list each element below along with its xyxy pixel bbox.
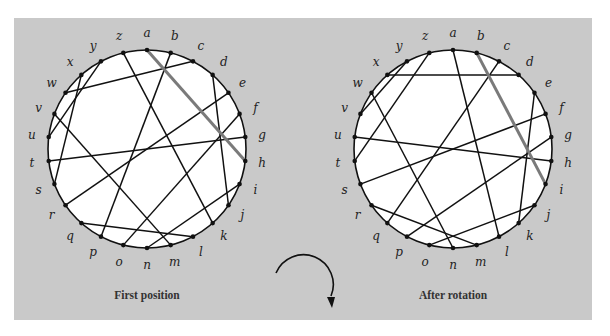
point-g (243, 135, 248, 140)
point-r (63, 203, 68, 208)
point-w (369, 90, 374, 95)
point-label-s: s (341, 183, 347, 197)
point-u (352, 135, 357, 140)
point-label-a: a (449, 26, 456, 40)
point-c (191, 59, 196, 64)
point-k (210, 221, 215, 226)
point-x (385, 73, 390, 78)
point-label-h: h (258, 156, 266, 170)
point-label-n: n (449, 258, 457, 272)
point-b (168, 51, 173, 56)
point-r (369, 203, 374, 208)
point-m (474, 243, 479, 248)
point-label-z: z (421, 29, 429, 43)
point-label-m: m (169, 255, 180, 269)
point-label-g: g (564, 128, 572, 142)
point-label-y: y (89, 39, 97, 53)
point-label-k: k (526, 229, 533, 243)
point-label-m: m (475, 255, 486, 269)
point-label-r: r (49, 208, 56, 222)
point-p (99, 234, 104, 239)
point-o (121, 243, 126, 248)
point-f (543, 112, 548, 117)
point-label-j: j (238, 208, 245, 222)
point-j (226, 203, 231, 208)
point-label-w: w (352, 76, 363, 90)
point-label-t: t (29, 156, 34, 170)
point-h (549, 159, 554, 164)
point-label-c: c (504, 39, 511, 53)
point-label-b: b (171, 29, 179, 43)
point-d (210, 73, 215, 78)
point-x (79, 73, 84, 78)
point-label-d: d (526, 55, 534, 69)
point-label-l: l (505, 245, 509, 259)
point-label-o: o (116, 255, 123, 269)
point-label-u: u (334, 128, 342, 142)
point-y (99, 59, 104, 64)
point-label-e: e (239, 76, 246, 90)
point-label-v: v (341, 101, 348, 115)
point-o (427, 243, 432, 248)
point-label-i: i (560, 183, 564, 197)
caption-after-rotation: After rotation (419, 289, 488, 301)
point-label-q: q (66, 229, 74, 243)
point-label-y: y (395, 39, 403, 53)
point-a (451, 48, 456, 53)
point-u (46, 135, 51, 140)
point-label-x: x (373, 55, 380, 69)
point-label-g: g (258, 128, 266, 142)
chord-rotation-diagram: abcdefghijklmnopqrstuvwxyz abcdefghijklm… (0, 0, 610, 336)
point-label-x: x (67, 55, 74, 69)
point-y (405, 59, 410, 64)
point-a (145, 48, 150, 53)
diagram-first-position: abcdefghijklmnopqrstuvwxyz (28, 26, 266, 272)
point-l (191, 234, 196, 239)
point-t (46, 159, 51, 164)
point-c (497, 59, 502, 64)
point-n (145, 246, 150, 251)
point-l (497, 234, 502, 239)
point-v (358, 112, 363, 117)
point-label-k: k (220, 229, 227, 243)
rotation-arrow-icon (276, 255, 335, 308)
point-v (52, 112, 57, 117)
point-h (243, 159, 248, 164)
point-label-p: p (395, 245, 403, 259)
point-label-v: v (35, 101, 42, 115)
point-j (532, 203, 537, 208)
point-label-n: n (143, 258, 151, 272)
point-label-f: f (252, 101, 260, 115)
point-e (226, 90, 231, 95)
point-b (474, 51, 479, 56)
point-label-w: w (46, 76, 57, 90)
point-label-z: z (115, 29, 123, 43)
point-k (516, 221, 521, 226)
diagram-after-rotation: abcdefghijklmnopqrstuvwxyz (334, 26, 572, 272)
point-label-b: b (477, 29, 485, 43)
point-n (451, 246, 456, 251)
point-label-s: s (35, 183, 41, 197)
point-label-h: h (564, 156, 572, 170)
point-s (52, 182, 57, 187)
point-q (79, 221, 84, 226)
point-label-i: i (254, 183, 258, 197)
point-label-p: p (89, 245, 97, 259)
point-z (427, 51, 432, 56)
point-label-a: a (143, 26, 150, 40)
point-label-l: l (199, 245, 203, 259)
point-label-d: d (220, 55, 228, 69)
point-label-c: c (198, 39, 205, 53)
point-label-e: e (545, 76, 552, 90)
point-e (532, 90, 537, 95)
point-label-r: r (355, 208, 362, 222)
point-d (516, 73, 521, 78)
point-p (405, 234, 410, 239)
point-label-f: f (558, 101, 566, 115)
point-label-o: o (422, 255, 429, 269)
point-f (237, 112, 242, 117)
point-i (237, 182, 242, 187)
point-label-t: t (335, 156, 340, 170)
point-w (63, 90, 68, 95)
point-z (121, 51, 126, 56)
